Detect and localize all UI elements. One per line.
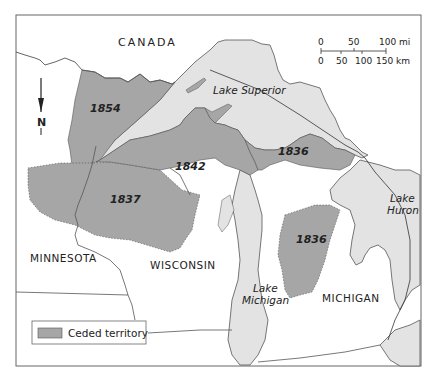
label-minnesota: MINNESOTA <box>30 252 97 264</box>
legend-label: Ceded territory <box>68 327 148 339</box>
scale-mi-50: 50 <box>348 37 360 47</box>
label-ceded-1854: 1854 <box>90 102 121 115</box>
label-ceded-1836-north: 1836 <box>278 145 309 158</box>
scale-mi-0: 0 <box>318 37 324 47</box>
label-canada: CANADA <box>118 36 177 49</box>
label-lake-huron-2: Huron <box>387 204 419 216</box>
scale-km-150: 150 km <box>376 56 410 66</box>
north-arrow-label: N <box>37 116 46 129</box>
label-ceded-1842: 1842 <box>175 160 206 173</box>
map: N 0 50 100 mi 0 50 100 150 km CANADA MIN… <box>0 0 434 381</box>
scale-mi-100: 100 mi <box>379 37 410 47</box>
scale-km-50: 50 <box>336 56 348 66</box>
label-ceded-1836-south: 1836 <box>296 233 327 246</box>
label-ceded-1837: 1837 <box>110 193 141 206</box>
label-wisconsin: WISCONSIN <box>150 259 216 271</box>
legend-swatch <box>38 328 62 338</box>
label-lake-huron-1: Lake <box>390 192 415 204</box>
scale-km-100: 100 <box>355 56 372 66</box>
label-lake-michigan-1: Lake <box>253 282 278 294</box>
scale-km-0: 0 <box>318 56 324 66</box>
label-lake-michigan-2: Michigan <box>242 294 289 306</box>
label-michigan: MICHIGAN <box>322 292 380 304</box>
label-lake-superior: Lake Superior <box>213 84 286 96</box>
legend: Ceded territory <box>32 321 148 344</box>
